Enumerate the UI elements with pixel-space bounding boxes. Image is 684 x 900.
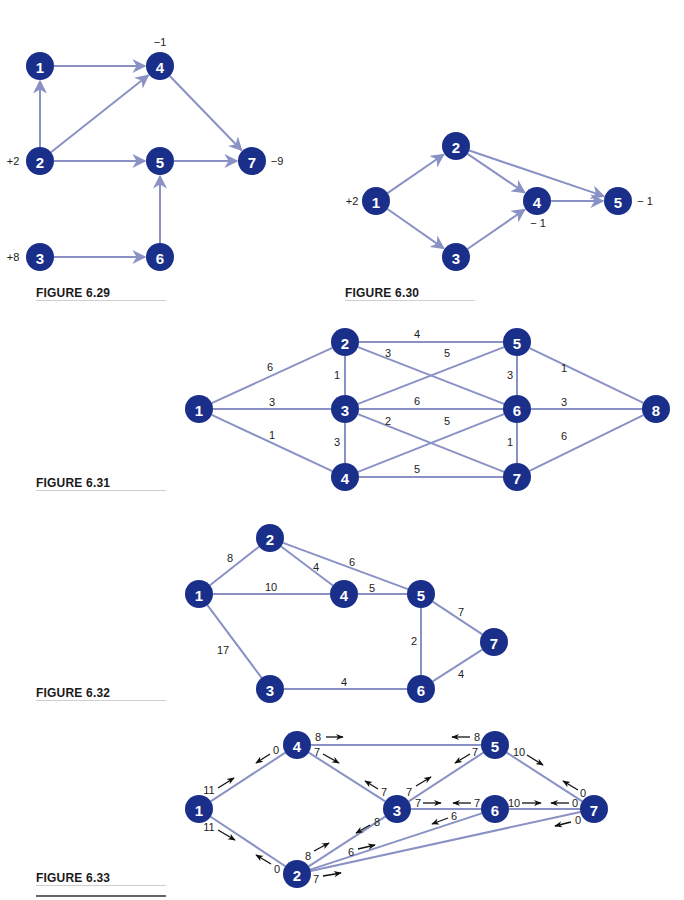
graph-node-1: 1 [185, 395, 213, 423]
flow-value-label: 0 [273, 744, 279, 756]
node-number-label: 6 [513, 402, 521, 419]
flow-arrow-icon [323, 754, 339, 763]
node-number-label: 6 [417, 682, 425, 699]
node-number-label: 2 [341, 335, 349, 352]
node-number-label: 7 [590, 802, 598, 819]
graph-node-8: 8 [642, 395, 670, 423]
edge-weight-label: 3 [561, 396, 567, 408]
edge-weight-label: 10 [265, 581, 277, 593]
flow-value-label: 10 [513, 746, 525, 758]
edge-4-7 [170, 76, 242, 150]
edge-weight-label: 8 [227, 552, 233, 564]
node-number-label: 5 [513, 335, 521, 352]
edge-weight-label: 2 [385, 415, 391, 427]
caption-rule-bottom [36, 895, 166, 897]
edge-weight-label: 4 [341, 676, 347, 688]
flow-arrow-icon [365, 781, 378, 789]
graph-node-5: 5 [481, 731, 509, 759]
edge-1-3 [207, 605, 261, 678]
edge-1-3 [387, 209, 443, 248]
graph-figures-canvas: 1425736123451234567812457364513672 −1+2−… [0, 0, 684, 900]
edge-weight-label: 3 [507, 369, 513, 381]
graph-node-3: 3 [256, 675, 284, 703]
node-number-label: 5 [156, 154, 164, 171]
edge-weight-label: 6 [561, 430, 567, 442]
edge-weight-label: 4 [458, 668, 464, 680]
edge-7-8 [530, 415, 644, 471]
edge-weight-label: 5 [444, 347, 450, 359]
edge-4-3 [309, 753, 385, 802]
graph-node-1: 1 [26, 52, 54, 80]
node-supply-label: − 1 [637, 195, 653, 207]
edge-weight-label: 17 [217, 644, 229, 656]
node-number-label: 2 [452, 139, 460, 156]
flow-value-label: 0 [572, 797, 578, 809]
caption-rule [36, 300, 166, 301]
edge-2-7 [311, 812, 581, 871]
graph-node-6: 6 [481, 795, 509, 823]
edge-weight-label: 3 [334, 436, 340, 448]
edge-1-4 [211, 753, 286, 802]
figures-page: 1425736123451234567812457364513672 −1+2−… [0, 0, 684, 900]
edge-5-7 [507, 753, 582, 802]
edge-1-2 [212, 348, 333, 403]
node-number-label: 5 [417, 587, 425, 604]
graph-node-1: 1 [185, 795, 213, 823]
graph-node-5: 5 [503, 328, 531, 356]
graph-node-5: 5 [604, 187, 632, 215]
node-number-label: 3 [36, 250, 44, 267]
edge-weight-label: 3 [385, 347, 391, 359]
node-number-label: 7 [490, 635, 498, 652]
flow-value-label: 0 [274, 863, 280, 875]
graph-node-7: 7 [503, 463, 531, 491]
edge-weight-label: 4 [414, 328, 420, 340]
graph-node-4: 4 [331, 463, 359, 491]
node-number-label: 1 [195, 402, 203, 419]
graph-node-6: 6 [503, 395, 531, 423]
edge-weight-label: 6 [414, 395, 420, 407]
flow-value-label: 7 [406, 786, 412, 798]
caption-figure-6-30: FIGURE 6.30 [345, 286, 419, 300]
graph-node-2: 2 [256, 524, 284, 552]
flow-value-label: 7 [313, 873, 319, 885]
node-number-label: 4 [340, 587, 349, 604]
node-number-label: 5 [491, 738, 499, 755]
node-number-label: 4 [156, 59, 165, 76]
graph-node-3: 3 [331, 395, 359, 423]
graph-node-4: 4 [283, 731, 311, 759]
edge-1-2 [388, 154, 444, 193]
graph-node-3: 3 [383, 795, 411, 823]
node-number-label: 4 [341, 470, 350, 487]
flow-value-label: 8 [315, 731, 321, 743]
graph-node-5: 5 [407, 580, 435, 608]
flow-value-label: 10 [508, 797, 520, 809]
node-supply-label: −9 [271, 155, 284, 167]
flow-arrow-icon [416, 777, 431, 786]
graph-node-7: 7 [480, 628, 508, 656]
graph-node-1: 1 [185, 580, 213, 608]
edge-3-4 [468, 210, 525, 250]
graph-node-2: 2 [26, 147, 54, 175]
caption-rule [36, 700, 166, 701]
flow-value-label: 7 [474, 797, 480, 809]
flow-value-label: 6 [451, 810, 457, 822]
node-number-label: 2 [293, 867, 301, 884]
node-supply-label: +2 [346, 195, 359, 207]
flow-value-label: 11 [203, 821, 214, 833]
node-number-label: 4 [533, 194, 542, 211]
flow-value-label: 7 [472, 746, 478, 758]
edge-weight-label: 5 [414, 463, 420, 475]
node-number-label: 3 [266, 682, 274, 699]
flow-value-label: 11 [203, 784, 214, 796]
flow-value-label: 8 [474, 731, 480, 743]
flow-value-label: 7 [381, 786, 387, 798]
caption-rule [36, 885, 166, 886]
graph-node-4: 4 [330, 580, 358, 608]
node-supply-label: +8 [7, 251, 20, 263]
edge-3-5 [409, 753, 484, 802]
caption-figure-6-31: FIGURE 6.31 [36, 476, 110, 490]
node-number-label: 3 [393, 802, 401, 819]
caption-figure-6-33: FIGURE 6.33 [36, 871, 110, 885]
graph-node-7: 7 [238, 147, 266, 175]
flow-value-label: 7 [314, 746, 320, 758]
